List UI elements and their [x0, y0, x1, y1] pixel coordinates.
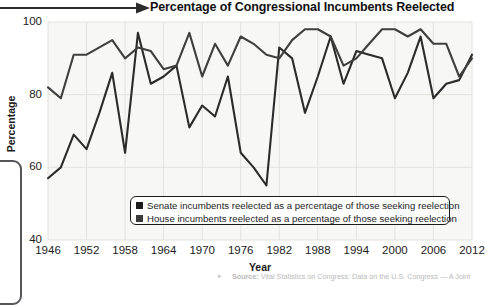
- source-label: Source:: [232, 272, 259, 281]
- chart-legend: Senate incumbents reelected as a percent…: [130, 196, 450, 225]
- data-series-group: [48, 29, 472, 185]
- legend-item-house: House incumbents reelected as a percenta…: [136, 212, 449, 224]
- source-bullet-icon: ▸: [218, 272, 222, 280]
- legend-item-senate: Senate incumbents reelected as a percent…: [136, 199, 449, 211]
- y-axis-tick-100: 100: [2, 15, 42, 27]
- legend-swatch-house: [136, 215, 143, 222]
- source-text: Vital Statistics on Congress: Data on th…: [259, 272, 471, 281]
- source-note: Source: Vital Statistics on Congress: Da…: [232, 272, 485, 281]
- legend-label-senate: Senate incumbents reelected as a percent…: [147, 200, 460, 211]
- legend-swatch-senate: [136, 202, 143, 209]
- y-axis-label: Percentage: [5, 79, 17, 169]
- legend-label-house: House incumbents reelected as a percenta…: [147, 213, 457, 224]
- x-axis-tick-2012: 2012: [449, 244, 485, 256]
